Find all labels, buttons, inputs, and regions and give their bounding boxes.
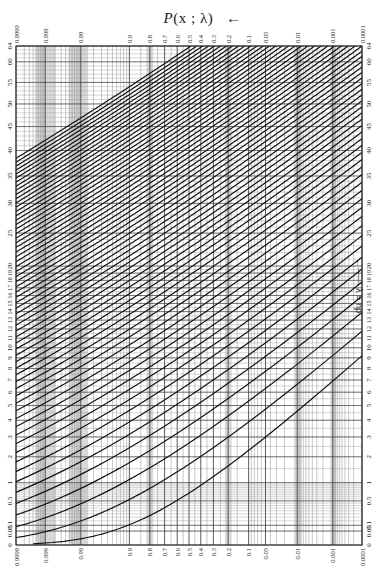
top-label-0.1: 0.1	[245, 35, 252, 43]
right-label-18: 18	[366, 277, 372, 283]
left-label-55: 55	[6, 78, 14, 86]
bottom-label-0.9: 0.9	[126, 548, 133, 556]
right-lambda-labels: 00.050.10.512345678910111213141516171819…	[365, 42, 373, 547]
bottom-label-0.01: 0.01	[294, 548, 301, 559]
right-label-45: 45	[365, 123, 373, 130]
right-label-4: 4	[365, 418, 373, 422]
left-label-6: 6	[6, 390, 14, 394]
left-label-2: 2	[6, 455, 14, 459]
right-label-2: 2	[365, 455, 373, 459]
left-label-18: 18	[7, 277, 13, 283]
curve-x-57	[0, 46, 227, 193]
right-label-0.5: 0.5	[365, 496, 373, 505]
left-label-10: 10	[6, 344, 14, 352]
top-label-0.2: 0.2	[225, 35, 232, 43]
top-label-0.4: 0.4	[197, 34, 204, 43]
right-label-3: 3	[365, 435, 373, 439]
left-label-1: 1	[6, 480, 14, 484]
top-label-0.5: 0.5	[186, 35, 193, 43]
top-probability-labels: 0.99990.9990.990.90.80.70.60.50.40.30.20…	[13, 25, 366, 43]
right-label-14: 14	[366, 309, 372, 315]
bottom-label-0.9999: 0.9999	[13, 548, 20, 566]
right-label-30: 30	[365, 199, 373, 207]
left-label-30: 30	[6, 199, 14, 207]
top-label-0.05: 0.05	[262, 32, 269, 43]
bottom-label-0.99: 0.99	[77, 548, 84, 559]
left-label-7: 7	[6, 378, 14, 382]
top-label-0.9999: 0.9999	[13, 25, 20, 43]
right-label-40: 40	[365, 147, 373, 155]
right-label-10: 10	[365, 344, 373, 352]
bottom-label-0.999: 0.999	[42, 548, 49, 563]
bottom-label-0.1: 0.1	[245, 548, 252, 556]
right-label-64: 64	[365, 42, 373, 50]
left-label-9: 9	[6, 356, 14, 360]
bottom-probability-labels: 0.99990.9990.990.90.80.70.60.50.40.30.20…	[13, 547, 366, 566]
left-label-15: 15	[7, 300, 13, 306]
bottom-label-0.0001: 0.0001	[359, 548, 366, 566]
left-lambda-labels: 00.050.10.512345678910111213141516171819…	[6, 42, 14, 547]
right-label-17: 17	[366, 285, 372, 291]
right-label-12: 12	[366, 326, 372, 332]
right-label-25: 25	[365, 229, 373, 237]
right-label-15: 15	[366, 300, 372, 306]
left-label-8: 8	[6, 366, 14, 370]
left-label-64: 64	[6, 42, 14, 50]
poisson-probability-chart: 0.99990.9990.990.90.80.70.60.50.40.30.20…	[0, 0, 389, 583]
left-label-17: 17	[7, 285, 13, 291]
left-label-40: 40	[6, 147, 14, 155]
bottom-label-0.7: 0.7	[161, 547, 168, 556]
left-label-19: 19	[7, 270, 13, 276]
right-label-7: 7	[365, 378, 373, 382]
right-label-8: 8	[365, 366, 373, 370]
bottom-label-0.8: 0.8	[146, 548, 153, 556]
right-label-5: 5	[365, 403, 373, 407]
left-label-60: 60	[6, 58, 14, 66]
left-label-14: 14	[7, 309, 13, 315]
curve-x-8	[0, 221, 381, 471]
bottom-label-0.6: 0.6	[174, 547, 181, 556]
left-label-12: 12	[7, 326, 13, 332]
right-label-20: 20	[365, 262, 373, 270]
top-label-0.7: 0.7	[161, 34, 168, 43]
right-label-9: 9	[365, 356, 373, 360]
right-label-50: 50	[365, 100, 373, 108]
curve-x-1	[0, 316, 381, 541]
bottom-label-0.001: 0.001	[329, 548, 336, 563]
left-label-25: 25	[6, 229, 14, 237]
right-label-6: 6	[365, 390, 373, 394]
left-label-45: 45	[6, 123, 14, 130]
left-label-0.5: 0.5	[6, 496, 14, 505]
left-label-13: 13	[7, 317, 13, 323]
bottom-label-0.05: 0.05	[262, 548, 269, 559]
left-label-50: 50	[6, 100, 14, 108]
top-label-0.8: 0.8	[146, 35, 153, 43]
right-label-0: 0	[365, 543, 373, 547]
right-label-16: 16	[366, 293, 372, 299]
left-label-3: 3	[6, 435, 14, 439]
left-label-35: 35	[6, 172, 14, 180]
curve-x-17	[0, 145, 382, 399]
poisson-curves	[0, 46, 382, 544]
bottom-label-0.4: 0.4	[197, 547, 204, 556]
curve-x-25	[0, 92, 382, 348]
bottom-label-0.3: 0.3	[210, 548, 217, 556]
top-label-0.99: 0.99	[77, 32, 84, 43]
top-label-0.3: 0.3	[210, 35, 217, 43]
left-label-4: 4	[6, 418, 14, 422]
bottom-label-0.2: 0.2	[225, 548, 232, 556]
left-label-11: 11	[7, 335, 13, 341]
curve-x-29	[0, 70, 381, 325]
right-label-35: 35	[365, 172, 373, 180]
left-label-0: 0	[6, 543, 14, 547]
right-label-13: 13	[366, 317, 372, 323]
left-label-20: 20	[6, 262, 14, 270]
right-label-19: 19	[366, 270, 372, 276]
right-label-0.1: 0.1	[365, 520, 373, 529]
top-label-0.0001: 0.0001	[359, 25, 366, 43]
right-label-1: 1	[365, 480, 373, 484]
right-label-60: 60	[365, 58, 373, 66]
left-label-5: 5	[6, 403, 14, 407]
left-label-0.1: 0.1	[6, 520, 14, 529]
bottom-label-0.5: 0.5	[186, 548, 193, 556]
